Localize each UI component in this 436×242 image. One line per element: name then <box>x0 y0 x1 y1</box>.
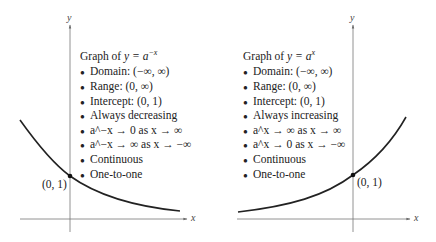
right-item: ●One-to-one <box>243 168 345 183</box>
left-properties: Graph of y = a−x ●Domain: (−∞, ∞) ●Range… <box>80 47 191 182</box>
right-item: ●a^x → 0 as x → −∞ <box>243 138 345 153</box>
right-item: ●Always increasing <box>243 109 345 124</box>
left-item: ●a^−x → ∞ as x → −∞ <box>80 138 191 153</box>
left-item: ●Continuous <box>80 153 191 168</box>
left-item: ●Domain: (−∞, ∞) <box>80 65 191 80</box>
left-item: ●a^−x → 0 as x → ∞ <box>80 124 191 139</box>
left-item: ●Range: (0, ∞) <box>80 80 191 95</box>
right-intercept-point <box>351 173 356 178</box>
right-y-label: y <box>350 12 354 23</box>
left-item: ●Always decreasing <box>80 109 191 124</box>
right-item: ●Continuous <box>243 153 345 168</box>
right-item: ●Intercept: (0, 1) <box>243 95 345 110</box>
right-title: Graph of y = ax <box>243 47 345 62</box>
right-point-label: (0, 1) <box>357 176 382 188</box>
left-item: ●One-to-one <box>80 168 191 183</box>
left-x-label: x <box>191 212 195 223</box>
left-item: ●Intercept: (0, 1) <box>80 95 191 110</box>
right-item: ●Domain: (−∞, ∞) <box>243 65 345 80</box>
graphs-canvas <box>0 0 436 242</box>
right-properties: Graph of y = ax ●Domain: (−∞, ∞) ●Range:… <box>243 47 345 182</box>
right-x-label: x <box>414 212 418 223</box>
right-item: ●a^x → ∞ as x → ∞ <box>243 124 345 139</box>
right-item: ●Range: (0, ∞) <box>243 80 345 95</box>
left-y-label: y <box>67 12 71 23</box>
left-intercept-point <box>68 174 73 179</box>
left-point-label: (0, 1) <box>42 178 67 190</box>
left-title: Graph of y = a−x <box>80 47 191 62</box>
